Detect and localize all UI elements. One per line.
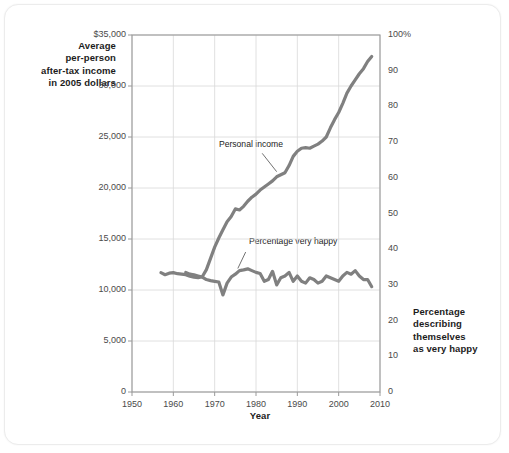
plot-area — [0, 0, 509, 453]
chart-figure: Average per-person after-tax income in 2… — [0, 0, 509, 453]
